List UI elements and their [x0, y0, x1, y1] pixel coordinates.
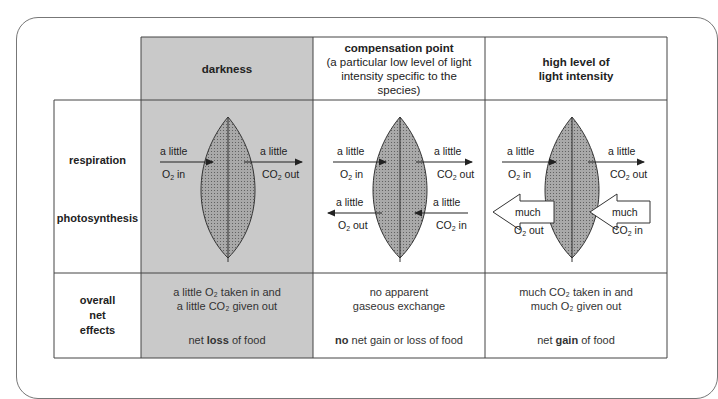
svg-text:a little: a little — [507, 145, 535, 157]
svg-text:a little: a little — [336, 196, 364, 208]
darkness-gas-line2: a little CO₂ given out — [177, 299, 277, 313]
svg-text:much: much — [612, 206, 638, 218]
darkness-food-result: net loss of food — [188, 333, 265, 347]
svg-text:O2 in: O2 in — [508, 168, 531, 181]
svg-text:O2 in: O2 in — [340, 168, 363, 181]
svg-text:O2 out: O2 out — [514, 224, 544, 237]
darkness-o2-in: O2 in — [162, 168, 185, 181]
darkness-gas-line1: a little O₂ taken in and — [173, 285, 281, 299]
comp-gas-line1: no apparent — [370, 285, 429, 299]
svg-text:a little: a little — [434, 145, 462, 157]
net-effect-darkness: a little O₂ taken in and a little CO₂ gi… — [141, 273, 313, 358]
leaf-high-light-icon — [545, 117, 599, 262]
svg-text:O2 out: O2 out — [338, 219, 368, 232]
svg-text:much: much — [515, 206, 541, 218]
comp-gas-line2: gaseous exchange — [353, 299, 445, 313]
leaf-compensation-icon — [373, 117, 427, 262]
svg-text:a little: a little — [433, 196, 461, 208]
svg-text:a little: a little — [337, 145, 365, 157]
net-effect-compensation: no apparent gaseous exchange no net gain… — [313, 273, 485, 358]
svg-text:CO2 out: CO2 out — [610, 168, 647, 181]
darkness-a-little-2: a little — [260, 145, 288, 157]
high-food-result: net gain of food — [537, 333, 615, 347]
svg-text:CO2 out: CO2 out — [437, 168, 474, 181]
darkness-a-little-1: a little — [160, 145, 188, 157]
comp-food-result: no net gain or loss of food — [335, 333, 463, 347]
svg-text:CO2 in: CO2 in — [436, 219, 467, 232]
svg-text:CO2 in: CO2 in — [612, 224, 643, 237]
high-gas-line2: much O₂ given out — [531, 299, 621, 313]
svg-text:a little: a little — [608, 145, 636, 157]
darkness-co2-out: CO2 out — [262, 168, 299, 181]
high-gas-line1: much CO₂ taken in and — [519, 285, 633, 299]
leaf-darkness-icon — [201, 117, 255, 262]
net-effect-high-light: much CO₂ taken in and much O₂ given out … — [485, 273, 667, 358]
